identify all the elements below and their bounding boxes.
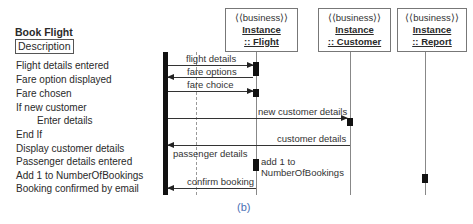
msg-fare-choice bbox=[168, 91, 253, 92]
step-booking-confirmed: Booking confirmed by email bbox=[16, 183, 139, 194]
object-flight: ⟨⟨business⟩⟩ Instance :: Flight bbox=[225, 8, 298, 52]
msg-label-confirm-booking: confirm booking bbox=[187, 176, 254, 187]
activation-flight-3 bbox=[253, 159, 259, 171]
class-label: :: Report bbox=[398, 36, 466, 48]
step-add-number-of-bookings: Add 1 to NumberOfBookings bbox=[16, 170, 143, 181]
stereotype-label: ⟨⟨business⟩⟩ bbox=[398, 12, 466, 24]
arrow-left-icon bbox=[167, 185, 174, 191]
instance-label: Instance bbox=[398, 24, 466, 36]
object-report: ⟨⟨business⟩⟩ Instance :: Report bbox=[397, 8, 467, 52]
stereotype-label: ⟨⟨business⟩⟩ bbox=[226, 12, 297, 24]
step-fare-option-displayed: Fare option displayed bbox=[16, 74, 112, 85]
figure-caption: (b) bbox=[237, 201, 250, 213]
arrow-left-icon bbox=[167, 74, 174, 80]
msg-label-passenger-details: passenger details bbox=[173, 148, 247, 159]
class-label: :: Customer bbox=[319, 36, 390, 48]
arrow-right-icon bbox=[247, 62, 254, 68]
msg-label-add-1-to: add 1 to bbox=[261, 156, 295, 167]
msg-label-fare-options: fare options bbox=[187, 66, 237, 77]
step-if-new-customer: If new customer bbox=[16, 102, 87, 113]
step-passenger-details-entered: Passenger details entered bbox=[16, 156, 132, 167]
msg-label-fare-choice: fare choice bbox=[187, 79, 233, 90]
stereotype-label: ⟨⟨business⟩⟩ bbox=[319, 12, 390, 24]
instance-label: Instance bbox=[226, 24, 297, 36]
msg-label-new-customer-details: new customer details bbox=[258, 106, 347, 117]
msg-confirm-booking bbox=[168, 188, 256, 189]
msg-label-flight-details: flight details bbox=[186, 53, 236, 64]
step-display-customer-details: Display customer details bbox=[16, 143, 124, 154]
msg-new-customer-details bbox=[168, 118, 347, 119]
object-customer: ⟨⟨business⟩⟩ Instance :: Customer bbox=[318, 8, 391, 52]
use-case-title: Book Flight bbox=[15, 26, 73, 38]
step-flight-details-entered: Flight details entered bbox=[16, 60, 109, 71]
class-label: :: Flight bbox=[226, 36, 297, 48]
arrow-right-icon bbox=[247, 88, 254, 94]
msg-fare-options bbox=[168, 77, 253, 78]
msg-label-customer-details: customer details bbox=[277, 133, 346, 144]
step-fare-chosen: Fare chosen bbox=[16, 88, 72, 99]
step-enter-details: Enter details bbox=[37, 115, 93, 126]
step-end-if: End If bbox=[16, 129, 42, 140]
arrow-right-icon bbox=[341, 115, 348, 121]
instance-label: Instance bbox=[319, 24, 390, 36]
activation-report bbox=[422, 174, 428, 183]
description-label: Description bbox=[15, 39, 74, 54]
msg-customer-details bbox=[168, 145, 350, 146]
msg-label-number-of-bookings: NumberOfBookings bbox=[261, 167, 344, 178]
